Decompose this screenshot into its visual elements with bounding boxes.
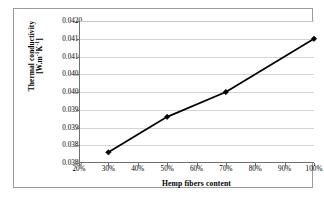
chart-frame: Thermal conductivity [W.m-1K-1] 0.03800.… [13, 8, 313, 188]
series-line-chart [79, 21, 314, 163]
y-axis-tick-mark [76, 110, 79, 111]
y-axis-tick-mark [76, 128, 79, 129]
y-axis-tick-mark [76, 74, 79, 75]
y-axis-tick-mark [76, 39, 79, 40]
x-axis-title: Hemp fibers content [79, 179, 314, 188]
chart-figure: Thermal conductivity [W.m-1K-1] 0.03800.… [0, 0, 324, 203]
x-axis-tick-labels: 20%30%40%50%60%70%80%90%100% [79, 165, 314, 177]
plot-area [79, 21, 314, 163]
y-axis-tick-mark [76, 21, 79, 22]
y-axis-tick-mark [76, 145, 79, 146]
y-axis-tick-mark [76, 92, 79, 93]
x-axis-tick-label: 100% [294, 165, 324, 173]
y-axis-tick-mark [76, 57, 79, 58]
series-line [108, 39, 314, 153]
